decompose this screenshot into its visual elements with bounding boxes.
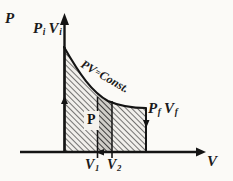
initial-volume-symbol: V xyxy=(49,20,59,36)
pv-diagram-figure: P V PiVi PfVf PV=Const. P V1 V2 xyxy=(0,0,233,181)
v2-symbol: V xyxy=(107,157,117,172)
initial-pressure-subscript: i xyxy=(43,27,46,37)
v1-symbol: V xyxy=(85,157,95,172)
x-tick-label-v2: V2 xyxy=(107,158,121,173)
final-pressure-subscript: f xyxy=(158,107,161,117)
initial-pressure-symbol: P xyxy=(33,20,42,36)
final-volume-subscript: f xyxy=(175,107,178,117)
volume-axis-label: V xyxy=(207,154,217,169)
x-tick-label-v1: V1 xyxy=(85,158,99,173)
work-region-label: P xyxy=(84,111,99,130)
initial-state-label: PiVi xyxy=(33,21,62,37)
v1-subscript: 1 xyxy=(95,163,100,173)
final-volume-symbol: V xyxy=(164,100,174,116)
v2-subscript: 2 xyxy=(117,163,122,173)
pressure-axis-label: P xyxy=(5,11,14,26)
initial-volume-subscript: i xyxy=(59,27,62,37)
final-state-label: PfVf xyxy=(148,101,178,117)
final-pressure-symbol: P xyxy=(148,100,157,116)
volume-axis-arrowhead xyxy=(196,148,206,157)
